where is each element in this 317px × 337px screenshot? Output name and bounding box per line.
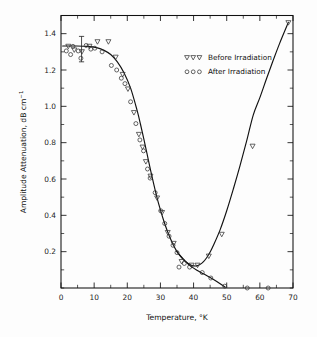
legend-label: Before Irradiation [208,53,272,62]
x-axis-tick-labels: 010203040506070 [59,293,298,302]
data-point-triangle [106,40,111,45]
data-point-circle [129,100,133,104]
legend-label: After Irradiation [208,67,265,76]
data-point-circle [138,138,142,142]
x-tick-label: 70 [288,293,298,302]
data-point-triangle [125,87,130,92]
legend-marker-triangle [197,56,202,60]
svg-text:Temperature, °K: Temperature, °K [145,313,209,322]
legend-marker-circle [198,70,202,74]
chart-legend: Before IrradiationAfter Irradiation [185,53,272,76]
x-tick-label: 10 [89,293,99,302]
figure-container: 010203040506070 0.20.40.60.81.01.21.4 Te… [0,0,317,337]
data-point-triangle [95,40,100,45]
data-point-circle [109,63,113,67]
data-point-circle [79,56,83,60]
x-tick-label: 20 [123,293,133,302]
legend-marker-circle [191,70,195,74]
data-point-circle [115,68,119,72]
data-point-circle [146,167,150,171]
y-tick-label: 0.4 [44,211,56,220]
data-point-circle [134,122,138,126]
y-axis-tick-labels: 0.20.40.60.81.01.21.4 [44,29,56,256]
y-tick-label: 0.8 [44,138,56,147]
data-point-circle [177,265,181,269]
data-point-circle [119,76,123,80]
data-point-circle [123,82,127,86]
data-point-circle [142,149,146,153]
x-tick-label: 40 [189,293,199,302]
data-point-circle [69,53,73,57]
y-tick-label: 0.2 [44,247,56,256]
x-tick-label: 30 [156,293,166,302]
x-axis-title: Temperature, °K [145,313,209,322]
data-point-triangle [143,160,148,165]
x-tick-label: 50 [222,293,232,302]
legend-marker-triangle [185,56,190,60]
data-point-circle [182,261,186,265]
legend-marker-circle [185,70,189,74]
data-point-triangle [136,132,141,137]
y-axis-title: Amplitude Attenuation, dB cm−1 [18,91,28,214]
data-point-triangle [131,111,136,116]
y-tick-label: 1.0 [44,102,56,111]
legend-marker-triangle [191,56,196,60]
svg-text:Amplitude Attenuation, dB cm−1: Amplitude Attenuation, dB cm−1 [18,91,28,214]
y-tick-label: 1.4 [44,29,56,38]
fitted-curves [63,22,289,287]
data-point-triangle [250,144,255,149]
y-tick-label: 1.2 [44,66,56,75]
data-point-circle [100,50,104,54]
data-point-triangle [219,232,224,237]
data-point-circle [64,49,68,53]
x-tick-label: 0 [59,293,64,302]
attenuation-scatter-chart: 010203040506070 0.20.40.60.81.01.21.4 Te… [0,0,317,337]
x-tick-label: 60 [255,293,265,302]
fit-curve-lower-branch [176,251,225,287]
y-tick-label: 0.6 [44,175,56,184]
